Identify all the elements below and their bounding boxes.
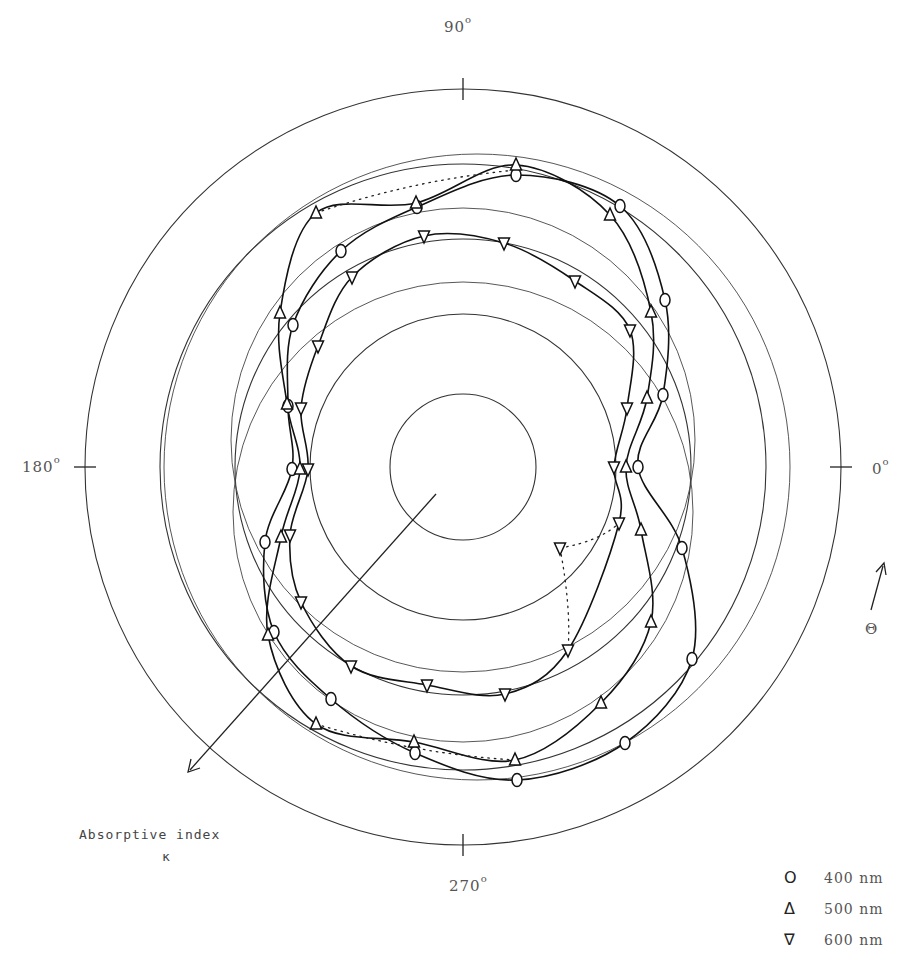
triangle-up-marker-icon xyxy=(511,158,522,170)
reference-circle xyxy=(310,314,616,620)
triangle-down-marker-icon xyxy=(555,543,566,555)
circle-marker-icon xyxy=(288,319,298,332)
circle-marker-icon xyxy=(660,294,670,307)
curve-600nm xyxy=(290,234,634,696)
angle-label-0: 0o xyxy=(872,460,890,478)
circle-marker-icon xyxy=(260,536,270,549)
circle-marker-icon xyxy=(658,389,668,402)
triangle-up-marker-icon xyxy=(596,696,607,708)
triangle-up-marker-icon xyxy=(646,615,657,627)
circle-marker-icon xyxy=(336,245,346,258)
circle-marker-icon xyxy=(512,774,522,787)
triangle-down-marker-icon xyxy=(346,661,357,673)
triangle-up-marker-icon xyxy=(642,391,653,403)
curve-400nm xyxy=(264,175,696,780)
theta-label: Θ xyxy=(865,620,878,638)
circle-marker-icon xyxy=(326,693,336,706)
absorptive-index-label: Absorptive index xyxy=(79,827,220,842)
triangle-up-marker-icon xyxy=(275,306,286,318)
triangle-down-marker-icon xyxy=(622,403,633,415)
triangle-up-marker-icon xyxy=(311,206,322,218)
legend-item-500nm: Δ 500 nm xyxy=(784,893,883,924)
triangle-up-marker-icon xyxy=(311,717,322,729)
triangle-down-marker-icon xyxy=(625,325,636,337)
legend-item-400nm: O 400 nm xyxy=(784,862,883,893)
triangle-up-marker-icon xyxy=(605,208,616,220)
reference-circle xyxy=(160,164,766,770)
circle-marker-icon xyxy=(687,653,697,666)
axis-ticks xyxy=(74,78,852,856)
circle-marker-icon: O xyxy=(784,868,808,887)
reference-circle xyxy=(390,394,536,540)
legend: O 400 nm Δ 500 nm ∇ 600 nm xyxy=(784,862,883,955)
triangle-down-marker-icon xyxy=(313,341,324,353)
circle-marker-icon xyxy=(633,461,643,474)
circle-marker-icon xyxy=(615,200,625,213)
triangle-down-marker-icon xyxy=(570,276,581,288)
triangle-up-marker-icon: Δ xyxy=(784,899,808,918)
circle-marker-icon xyxy=(410,747,420,760)
triangle-down-marker-icon xyxy=(296,597,307,609)
fitted-circles xyxy=(164,154,790,780)
legend-item-600nm: ∇ 600 nm xyxy=(784,924,883,955)
reference-circle xyxy=(85,89,841,845)
legend-label: 400 nm xyxy=(824,870,883,886)
reference-circles xyxy=(85,89,841,845)
legend-label: 600 nm xyxy=(824,932,883,948)
angle-label-90: 90o xyxy=(444,18,472,36)
polar-chart xyxy=(0,0,921,961)
dotted-connector xyxy=(560,523,619,548)
theta-arrow xyxy=(871,563,886,610)
legend-label: 500 nm xyxy=(824,901,883,917)
dotted-connector xyxy=(560,548,569,650)
angle-label-270: 270o xyxy=(449,877,488,895)
fit-circle-outer xyxy=(164,154,790,780)
kappa-label: κ xyxy=(162,849,171,864)
circle-marker-icon xyxy=(620,737,630,750)
triangle-down-marker-icon xyxy=(609,462,620,474)
triangle-up-marker-icon xyxy=(621,460,632,472)
triangle-up-marker-icon xyxy=(636,523,647,535)
triangle-down-marker-icon xyxy=(296,403,307,415)
circle-marker-icon xyxy=(677,542,687,555)
angle-label-180: 180o xyxy=(22,458,61,476)
triangle-up-marker-icon xyxy=(646,305,657,317)
triangle-down-marker-icon xyxy=(614,518,625,530)
triangle-down-marker-icon: ∇ xyxy=(784,930,808,949)
data-markers xyxy=(260,158,697,787)
